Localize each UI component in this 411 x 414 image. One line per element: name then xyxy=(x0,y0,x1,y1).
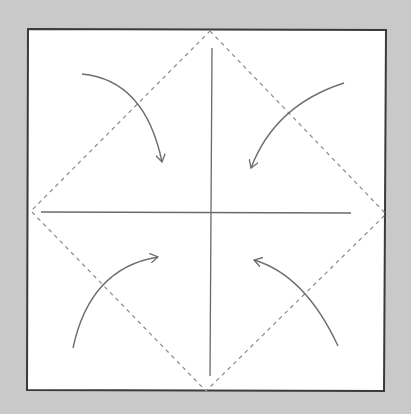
paper-square xyxy=(27,29,386,391)
origami-fold-diagram xyxy=(0,0,411,414)
